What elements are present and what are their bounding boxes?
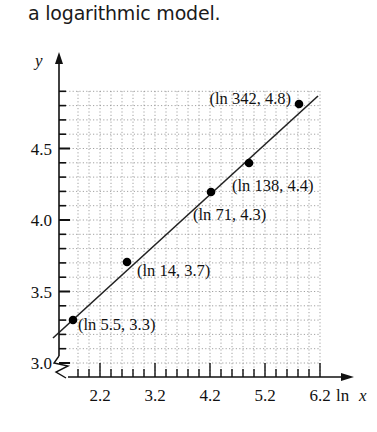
svg-text:x: x bbox=[358, 386, 367, 405]
point-label: (ln 71, 4.3) bbox=[193, 205, 266, 224]
svg-text:ln: ln bbox=[336, 386, 350, 405]
svg-text:4.2: 4.2 bbox=[199, 386, 220, 405]
svg-text:y: y bbox=[33, 51, 43, 70]
data-point bbox=[69, 316, 78, 325]
point-label: (ln 138, 4.4) bbox=[232, 176, 314, 195]
grid bbox=[59, 91, 320, 377]
point-label: (ln 14, 3.7) bbox=[137, 261, 210, 280]
data-point bbox=[245, 159, 254, 168]
point-label: (ln 342, 4.8) bbox=[209, 89, 291, 108]
point-label: (ln 5.5, 3.3) bbox=[78, 315, 155, 334]
data-point bbox=[123, 258, 132, 267]
axes: yln x bbox=[33, 51, 367, 405]
data-point bbox=[207, 188, 216, 197]
svg-text:4.5: 4.5 bbox=[31, 140, 52, 159]
svg-text:2.2: 2.2 bbox=[89, 386, 110, 405]
svg-text:6.2: 6.2 bbox=[309, 386, 330, 405]
fit-line bbox=[53, 96, 318, 338]
svg-text:3.0: 3.0 bbox=[31, 354, 52, 373]
data-point bbox=[295, 100, 304, 109]
svg-text:5.2: 5.2 bbox=[254, 386, 275, 405]
log-model-chart: yln x 3.03.54.04.52.23.24.25.26.2 (ln 5.… bbox=[0, 0, 377, 432]
svg-text:3.2: 3.2 bbox=[144, 386, 165, 405]
svg-text:4.0: 4.0 bbox=[31, 211, 52, 230]
svg-text:3.5: 3.5 bbox=[31, 283, 52, 302]
